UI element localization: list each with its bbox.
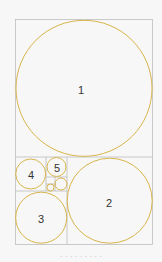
label-4: 4 — [28, 169, 34, 181]
label-1: 1 — [78, 84, 84, 96]
circle-7 — [47, 184, 54, 191]
golden-rectangle-diagram: 1 2 3 4 5 — [0, 0, 162, 262]
label-2: 2 — [106, 197, 112, 209]
inscribed-circles — [16, 20, 153, 243]
frame-lines — [16, 20, 153, 245]
label-5: 5 — [54, 162, 60, 174]
label-3: 3 — [38, 213, 44, 225]
caption: · · · · · · · · · — [0, 252, 162, 261]
circle-6 — [55, 178, 67, 190]
